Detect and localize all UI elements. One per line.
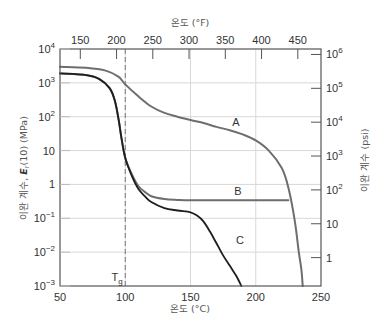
y-left-tick-label: 103 bbox=[38, 75, 55, 89]
data-curves bbox=[60, 67, 303, 286]
relaxation-modulus-chart: 10−310−210−11101021031045010015020025015… bbox=[0, 0, 380, 331]
y-left-tick-label: 10−2 bbox=[34, 244, 56, 258]
x-top-tick-label: 400 bbox=[252, 34, 270, 46]
x-tick-label: 150 bbox=[181, 291, 199, 303]
x-top-tick-label: 350 bbox=[216, 34, 234, 46]
y-left-tick-label: 10−3 bbox=[34, 278, 56, 292]
x-top-tick-label: 200 bbox=[107, 34, 125, 46]
x-tick-label: 50 bbox=[54, 291, 66, 303]
x-top-tick-label: 450 bbox=[289, 34, 307, 46]
y-left-tick-label: 10−1 bbox=[34, 210, 56, 224]
x-axis-title: 온도 (°C) bbox=[170, 303, 210, 314]
x-top-tick-label: 250 bbox=[144, 34, 162, 46]
x-tick-label: 250 bbox=[312, 291, 330, 303]
x-tick-label: 100 bbox=[116, 291, 134, 303]
y-right-tick-label: 1 bbox=[326, 252, 332, 264]
curve-b bbox=[60, 73, 288, 200]
tg-label: Tg bbox=[111, 271, 122, 286]
y-right-tick-label: 10 bbox=[326, 218, 338, 230]
y-left-tick-label: 10 bbox=[43, 145, 55, 157]
x-axis-top-title: 온도 (°F) bbox=[171, 17, 210, 28]
y-right-tick-label: 106 bbox=[326, 46, 343, 60]
y-right-tick-label: 103 bbox=[326, 148, 343, 162]
y-axis-left-title: 이완 계수, Er(10) (MPa) bbox=[18, 116, 31, 220]
x-top-tick-label: 150 bbox=[71, 34, 89, 46]
y-right-tick-label: 105 bbox=[326, 80, 343, 94]
y-left-tick-label: 102 bbox=[38, 109, 55, 123]
y-right-tick-label: 104 bbox=[326, 114, 343, 128]
curve-a-label: A bbox=[232, 116, 240, 128]
y-left-tick-label: 104 bbox=[38, 41, 55, 55]
x-top-tick-label: 300 bbox=[180, 34, 198, 46]
curve-c-label: C bbox=[236, 234, 244, 246]
curve-b-label: B bbox=[234, 185, 241, 197]
y-right-tick-label: 102 bbox=[326, 182, 343, 196]
y-left-tick-label: 1 bbox=[49, 178, 55, 190]
x-tick-label: 200 bbox=[247, 291, 265, 303]
curve-a bbox=[60, 67, 303, 286]
y-axis-right-title: 이완 계수 (psi) bbox=[359, 128, 370, 191]
